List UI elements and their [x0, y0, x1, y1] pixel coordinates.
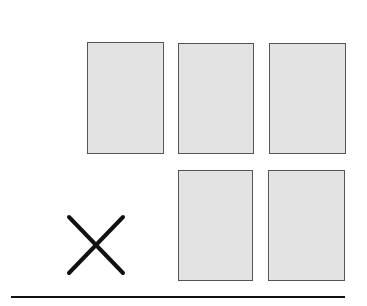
- card-r1-c1: [87, 42, 164, 154]
- card-r2-c3: [268, 170, 345, 281]
- x-mark-icon: [64, 212, 128, 278]
- card-r1-c3: [269, 43, 346, 154]
- baseline: [11, 296, 345, 298]
- card-r1-c2: [178, 43, 254, 154]
- card-r2-c2: [178, 170, 253, 281]
